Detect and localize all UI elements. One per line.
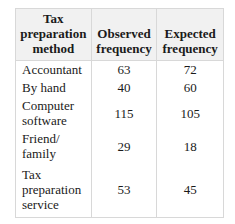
frequency-table: Tax preparation method Observed frequenc… — [15, 8, 224, 218]
expected-cell: 72 — [157, 61, 224, 80]
method-cell: Computer software — [16, 97, 92, 130]
table-row: Accountant 63 72 — [16, 61, 224, 80]
observed-cell: 63 — [91, 61, 157, 80]
table-row: By hand 40 60 — [16, 79, 224, 97]
expected-cell: 60 — [157, 79, 224, 97]
expected-cell: 45 — [157, 163, 224, 217]
observed-cell: 53 — [91, 163, 157, 217]
observed-cell: 29 — [91, 130, 157, 163]
expected-cell: 105 — [157, 97, 224, 130]
observed-cell: 40 — [91, 79, 157, 97]
header-expected: Expected frequency — [157, 9, 224, 61]
method-cell: Accountant — [16, 61, 92, 80]
observed-cell: 115 — [91, 97, 157, 130]
header-observed: Observed frequency — [91, 9, 157, 61]
table-row: Computer software 115 105 — [16, 97, 224, 130]
method-cell: By hand — [16, 79, 92, 97]
method-cell: Tax preparation service — [16, 163, 92, 217]
expected-cell: 18 — [157, 130, 224, 163]
table-row: Tax preparation service 53 45 — [16, 163, 224, 217]
header-row: Tax preparation method Observed frequenc… — [16, 9, 224, 61]
header-method: Tax preparation method — [16, 9, 92, 61]
table-row: Friend/ family 29 18 — [16, 130, 224, 163]
method-cell: Friend/ family — [16, 130, 92, 163]
